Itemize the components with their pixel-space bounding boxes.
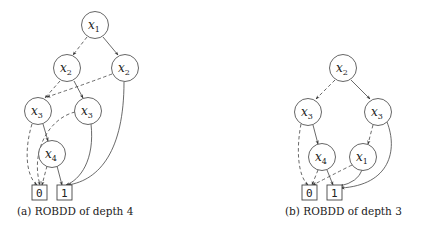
edge-a-x4-1-high bbox=[57, 166, 62, 185]
node-sub: 1 bbox=[363, 157, 368, 166]
terminal-a-0: 0 bbox=[32, 185, 47, 200]
caption-figure-b: (b) ROBDD of depth 3 bbox=[285, 205, 402, 217]
edge-a-x1-x2R-high bbox=[103, 37, 118, 55]
node-sub: 2 bbox=[343, 68, 348, 77]
terminal-b-0: 0 bbox=[302, 185, 317, 200]
node-sub: 4 bbox=[322, 157, 327, 166]
edge-a-x2L-x3R-high bbox=[74, 81, 83, 98]
caption-figure-a: (a) ROBDD of depth 4 bbox=[17, 205, 133, 217]
node-sub: 3 bbox=[378, 112, 383, 121]
node-b-x3-right: x3 bbox=[365, 99, 392, 126]
node-a-x3-right: x3 bbox=[75, 98, 102, 125]
node-sub: 1 bbox=[95, 25, 100, 34]
edge-a-x3R-1-high bbox=[66, 124, 92, 185]
figure-b-nodes: x2 x3 x3 x4 x1 0 1 bbox=[295, 55, 392, 201]
figure-b-edges bbox=[298, 80, 391, 188]
edge-b-x3R-x1-low bbox=[368, 125, 373, 144]
edge-b-x3L-0-low bbox=[298, 124, 308, 185]
robdd-diagrams: x1 x2 x2 x3 x3 x4 0 1 bbox=[0, 0, 422, 234]
node-sub: 3 bbox=[308, 112, 313, 121]
node-a-x3-left: x3 bbox=[25, 98, 52, 125]
edge-a-x3L-0-low bbox=[27, 124, 37, 185]
terminal-label: 0 bbox=[36, 187, 43, 200]
node-a-x4: x4 bbox=[39, 141, 66, 168]
figure-a-nodes: x1 x2 x2 x3 x3 x4 0 1 bbox=[25, 12, 139, 201]
node-sub: 3 bbox=[38, 111, 43, 120]
edge-a-x1-x2L-low bbox=[73, 37, 87, 55]
node-b-x1: x1 bbox=[350, 144, 377, 171]
node-b-x4: x4 bbox=[309, 144, 336, 171]
terminal-label: 1 bbox=[61, 187, 68, 200]
edge-b-x2-x3R-high bbox=[351, 80, 370, 99]
node-a-x1: x1 bbox=[82, 12, 109, 39]
edge-a-x4-0-low bbox=[42, 166, 47, 185]
terminal-label: 1 bbox=[331, 187, 338, 200]
node-a-x2-right: x2 bbox=[112, 55, 139, 82]
node-sub: 2 bbox=[125, 68, 130, 77]
edge-b-x1-1-high bbox=[340, 170, 362, 186]
terminal-label: 0 bbox=[306, 187, 313, 200]
edge-b-x3L-x4-high bbox=[313, 125, 318, 144]
node-sub: 3 bbox=[88, 111, 93, 120]
node-b-x2: x2 bbox=[330, 55, 357, 82]
terminal-a-1: 1 bbox=[57, 185, 72, 200]
terminal-b-1: 1 bbox=[327, 185, 342, 200]
node-sub: 4 bbox=[52, 154, 57, 163]
node-b-x3-left: x3 bbox=[295, 99, 322, 126]
node-sub: 2 bbox=[67, 68, 72, 77]
edge-a-x2R-x1-high bbox=[68, 82, 124, 185]
edge-b-x2-x3L-low bbox=[316, 80, 335, 99]
node-a-x2-left: x2 bbox=[54, 55, 81, 82]
